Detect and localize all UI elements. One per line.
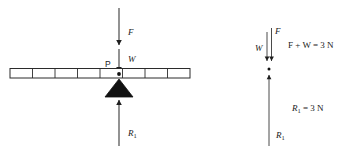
force-label-R1-subscript: 1 bbox=[134, 132, 137, 139]
left-diagram-group: F W P bbox=[10, 8, 190, 146]
vector-label-R1-subscript: 1 bbox=[282, 134, 285, 141]
force-vector-R1: R1 bbox=[119, 100, 137, 146]
diagram-canvas: F W P bbox=[0, 0, 350, 152]
annotation-sum-of-downward-forces: F + W = 3 N bbox=[288, 40, 334, 50]
ruler bbox=[10, 69, 190, 79]
vector-R1: R1 bbox=[269, 75, 285, 146]
vector-label-R1: R1 bbox=[275, 130, 285, 141]
force-diagram-figure: F W P bbox=[0, 0, 350, 152]
annotation-reaction-value: = 3 N bbox=[301, 103, 324, 113]
vector-F: F bbox=[272, 26, 282, 61]
force-label-F: F bbox=[127, 27, 134, 37]
annotation-reaction-force-value: R1 = 3 N bbox=[291, 103, 324, 114]
vector-label-F: F bbox=[274, 26, 281, 36]
pivot-dot bbox=[117, 72, 121, 76]
vector-junction-dot bbox=[268, 68, 271, 71]
force-vector-F: F bbox=[119, 8, 134, 45]
vector-label-W: W bbox=[255, 43, 264, 53]
force-label-R1: R1 bbox=[127, 128, 137, 139]
force-label-W: W bbox=[128, 54, 137, 64]
fulcrum-triangle bbox=[105, 79, 133, 97]
right-diagram-group: W F R1 F + W = 3 N R1 = 3 N bbox=[255, 26, 334, 146]
vector-W: W bbox=[255, 32, 267, 61]
pivot-point-label: P bbox=[105, 59, 111, 69]
